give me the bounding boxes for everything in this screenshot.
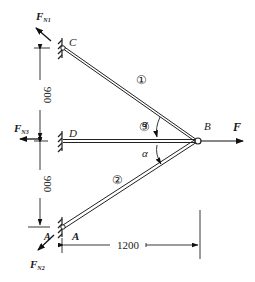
force-f-label: F bbox=[232, 120, 241, 134]
node-a-label: A bbox=[71, 230, 79, 242]
pin-b bbox=[195, 138, 201, 144]
angle-alpha-lower: α bbox=[142, 147, 148, 159]
force-fn3-label: FN3 bbox=[13, 122, 29, 135]
angle-arc-lower bbox=[157, 145, 162, 164]
pin-c bbox=[61, 46, 65, 50]
member-2 bbox=[63, 139, 197, 229]
horizontal-dimension bbox=[62, 210, 200, 259]
member-1 bbox=[63, 46, 197, 142]
pin-a bbox=[61, 225, 65, 229]
angle-arc-upper bbox=[156, 117, 160, 137]
force-fn2-label: FN2 bbox=[29, 258, 45, 271]
node-a-label-secondary: A bbox=[43, 231, 51, 242]
node-b-label: B bbox=[204, 120, 211, 132]
dimension-upper-900: 900 bbox=[42, 87, 54, 104]
force-fn1-label: FN1 bbox=[35, 10, 51, 23]
force-fn1-arrow bbox=[36, 28, 51, 41]
member-3 bbox=[63, 140, 196, 143]
node-d-label: D bbox=[68, 127, 77, 139]
vertical-dimension bbox=[28, 48, 50, 227]
member-2-label: ② bbox=[112, 173, 123, 187]
angle-alpha-upper: α bbox=[142, 117, 148, 129]
member-1-label: ① bbox=[136, 73, 147, 87]
truss-diagram: F FN1 FN3 FN2 C D A A B ① ③ ② α α 900 90… bbox=[0, 0, 255, 282]
dimension-lower-900: 900 bbox=[42, 176, 54, 193]
dimension-1200: 1200 bbox=[117, 239, 140, 251]
wall-support-d bbox=[58, 131, 62, 152]
node-c-label: C bbox=[69, 36, 77, 48]
